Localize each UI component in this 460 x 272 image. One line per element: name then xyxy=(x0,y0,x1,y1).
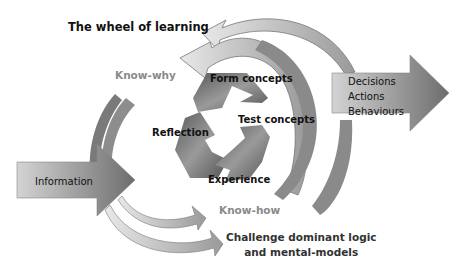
challenge-label: Challenge dominant logic and mental-mode… xyxy=(226,230,377,260)
challenge-line-1: Challenge dominant logic xyxy=(226,230,377,245)
output-labels: Decisions Actions Behaviours xyxy=(348,74,404,119)
know-how-label: Know-how xyxy=(219,204,280,216)
know-why-label: Know-why xyxy=(115,69,176,81)
form-concepts-label: Form concepts xyxy=(210,73,293,84)
information-label: Information xyxy=(35,176,93,187)
challenge-line-2: and mental-models xyxy=(226,245,377,260)
challenge-arrow xyxy=(105,205,223,256)
know-how-arrow xyxy=(118,196,206,230)
actions-label: Actions xyxy=(348,89,404,104)
test-concepts-label: Test concepts xyxy=(238,114,315,125)
experience-label: Experience xyxy=(208,174,270,185)
diagram-title: The wheel of learning xyxy=(68,20,209,34)
behaviours-label: Behaviours xyxy=(348,104,404,119)
reflection-label: Reflection xyxy=(152,127,209,138)
right-arc-lower xyxy=(312,120,352,215)
decisions-label: Decisions xyxy=(348,74,404,89)
